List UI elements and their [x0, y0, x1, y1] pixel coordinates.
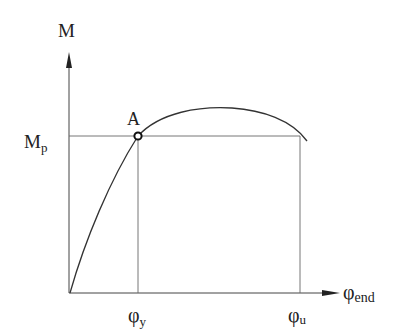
moment-curvature-curve — [70, 108, 307, 293]
point-a-marker — [134, 132, 141, 139]
y-axis-arrow-icon — [66, 52, 72, 68]
phi-u-label: φu — [288, 304, 307, 327]
x-axis — [69, 290, 340, 296]
moment-curvature-diagram: M Mp A φy φu φend — [0, 0, 397, 335]
y-axis-label: M — [58, 20, 75, 41]
x-axis-arrow-icon — [322, 290, 340, 296]
phi-y-label: φy — [128, 304, 147, 329]
y-axis — [66, 52, 72, 293]
x-axis-label: φend — [343, 281, 375, 305]
guide-lines — [69, 136, 300, 293]
point-a-label: A — [127, 109, 140, 129]
mp-label: Mp — [24, 131, 47, 155]
